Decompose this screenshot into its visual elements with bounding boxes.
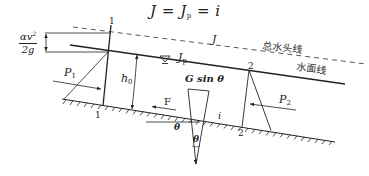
bed-slope-label: i xyxy=(218,111,221,121)
equation-j: J xyxy=(150,2,157,20)
section-2-bottom-label: 2 xyxy=(238,129,244,138)
section-1-top-label: 1 xyxy=(109,17,115,26)
velocity-head-numerator: αv xyxy=(20,31,32,42)
angle-outer-label: θ xyxy=(174,123,180,132)
water-surface-symbol-icon xyxy=(160,56,170,64)
gravity-component-line xyxy=(188,89,209,91)
pressure-2-diagonal xyxy=(249,70,271,131)
velocity-head-denominator: 2g xyxy=(19,44,37,55)
depth-sub: 0 xyxy=(128,78,132,86)
section-2-top-label: 2 xyxy=(248,62,254,71)
angle-inner-label: θ xyxy=(193,135,199,144)
depth-label: h0 xyxy=(121,73,133,86)
pressure-1-label: P1 xyxy=(64,67,76,80)
water-slope-label: Jp xyxy=(178,52,187,65)
section-1-bottom-label: 1 xyxy=(95,111,101,120)
velocity-head-label: αv2 2g xyxy=(19,31,37,56)
equation-title: J = Jp = i xyxy=(150,4,221,20)
friction-force-label: F xyxy=(164,97,171,107)
pressure-1-sub: 1 xyxy=(71,72,75,80)
gravity-component-label: G sin θ xyxy=(185,74,224,84)
energy-slope-label: J xyxy=(212,34,216,45)
pressure-2-label: P2 xyxy=(279,94,291,107)
pressure-2-sub: 2 xyxy=(286,99,290,107)
total-head-line xyxy=(73,27,366,64)
water-slope-sub: p xyxy=(182,57,186,65)
gravity-vertical-line xyxy=(188,89,196,164)
gravity-normal-line xyxy=(196,91,209,164)
velocity-head-exponent: 2 xyxy=(32,30,36,37)
equals-2: = xyxy=(197,2,210,20)
pressure-1-arrow xyxy=(53,81,101,89)
section-1-line xyxy=(103,25,111,106)
depth-arrow-up xyxy=(135,55,137,80)
equals-1: = xyxy=(162,2,175,20)
equation-jp-sub: p xyxy=(187,12,192,20)
friction-force-arrow xyxy=(152,107,176,111)
open-channel-uniform-flow-diagram xyxy=(0,0,369,176)
section-2-line xyxy=(242,70,249,127)
equation-i: i xyxy=(215,2,220,20)
